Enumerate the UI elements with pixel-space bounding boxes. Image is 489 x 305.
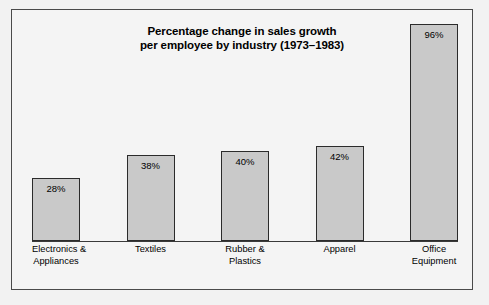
bar-slot-office-equipment: 96%: [410, 24, 458, 241]
bar-value-textiles: 38%: [128, 160, 174, 171]
bar-office-equipment: 96%: [410, 24, 458, 241]
bar-slot-rubber-plastics: 40%: [221, 24, 269, 241]
bar-value-office-equipment: 96%: [411, 29, 457, 40]
plot-area: 28% 38% 40% 42%: [32, 24, 458, 241]
bar-apparel: 42%: [316, 146, 364, 241]
x-label-electronics-appliances: Electronics & Appliances: [32, 244, 80, 267]
bar-series: 28% 38% 40% 42%: [32, 24, 458, 241]
x-label-line: Plastics: [221, 256, 269, 268]
bar-slot-textiles: 38%: [127, 24, 175, 241]
chart-page: Percentage change in sales growth per em…: [0, 0, 489, 305]
bar-rubber-plastics: 40%: [221, 151, 269, 241]
x-label-textiles: Textiles: [127, 244, 175, 256]
x-label-line: Rubber &: [221, 244, 269, 256]
bar-slot-electronics-appliances: 28%: [32, 24, 80, 241]
x-label-apparel: Apparel: [316, 244, 364, 256]
x-label-office-equipment: Office Equipment: [410, 244, 458, 267]
x-label-line: Office: [410, 244, 458, 256]
x-label-line: Electronics &: [32, 244, 80, 256]
x-label-line: Textiles: [127, 244, 175, 256]
x-label-rubber-plastics: Rubber & Plastics: [221, 244, 269, 267]
chart-frame: Percentage change in sales growth per em…: [11, 9, 473, 290]
bar-value-apparel: 42%: [317, 151, 363, 162]
bar-slot-apparel: 42%: [316, 24, 364, 241]
bar-value-electronics-appliances: 28%: [33, 183, 79, 194]
bar-electronics-appliances: 28%: [32, 178, 80, 241]
x-label-line: Appliances: [32, 256, 80, 268]
x-axis-line: [32, 241, 458, 242]
bar-value-rubber-plastics: 40%: [222, 156, 268, 167]
x-label-line: Equipment: [410, 256, 458, 268]
bar-textiles: 38%: [127, 155, 175, 241]
x-label-line: Apparel: [316, 244, 364, 256]
x-axis-labels: Electronics & Appliances Textiles Rubber…: [32, 244, 458, 281]
